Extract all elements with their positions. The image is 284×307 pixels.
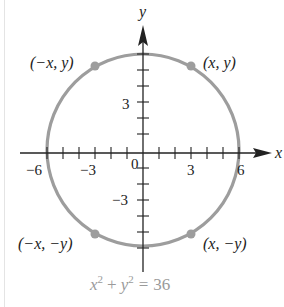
svg-text:x2+y2=36: x2+y2=36	[89, 273, 170, 294]
point-label-q2: (−x, y)	[30, 54, 74, 72]
y-tick-label-neg3: −3	[112, 192, 128, 208]
point-q3	[91, 230, 100, 239]
circle-diagram: y x 0 −6 −3 3 6 3 −3 (−x, y) (x, y) (−x,…	[0, 0, 284, 307]
point-label-q1: (x, y)	[203, 54, 236, 72]
x-tick-label-3: 3	[187, 162, 195, 178]
equation-equals: =	[139, 275, 149, 294]
equation-plus: +	[107, 275, 117, 294]
x-tick-label-neg6: −6	[26, 162, 42, 178]
x-tick-label-6: 6	[237, 162, 245, 178]
equation-x-exponent: 2	[98, 273, 104, 285]
x-axis-label: x	[274, 144, 282, 161]
equation-value: 36	[153, 275, 170, 294]
circle-equation: x2+y2=36	[89, 273, 170, 294]
point-q2	[91, 62, 100, 71]
y-axis-label: y	[137, 3, 147, 21]
equation-y-term: y	[119, 275, 129, 294]
point-label-q4: (x, −y)	[203, 235, 247, 253]
point-q1	[187, 62, 196, 71]
point-label-q3: (−x, −y)	[18, 235, 72, 253]
point-q4	[187, 230, 196, 239]
x-tick-label-neg3: −3	[80, 162, 96, 178]
equation-y-exponent: 2	[128, 273, 134, 285]
y-tick-label-3: 3	[122, 96, 130, 112]
origin-label: 0	[131, 156, 139, 172]
